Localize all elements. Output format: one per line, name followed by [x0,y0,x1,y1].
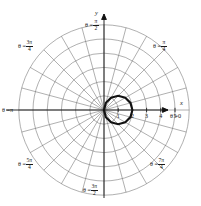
angle-label-theta-3pi-2: θ =3π2 [83,184,98,197]
x-tick-label-5: 5 [171,113,179,119]
grid-spoke-45deg [104,50,164,110]
angle-label-prefix: θ = [85,21,93,28]
angle-label-prefix: θ = [18,42,26,49]
polar-plot-canvas [0,0,201,206]
fraction: 3π4 [26,40,33,53]
angle-label-theta-pi-4: θ =π4 [153,40,167,53]
fraction-numerator: 7π [158,158,165,164]
angle-label-prefix: θ = [83,186,91,193]
grid-spoke-120deg [61,36,104,110]
x-axis-label: x [180,99,183,106]
angle-label-theta-pi: θ =π [2,107,13,113]
x-tick-label-2: 2 [128,113,136,119]
angle-label-theta-pi-2: θ =π2 [85,19,99,32]
fraction-denominator: 4 [162,47,166,53]
fraction-numerator: π [162,40,166,46]
x-tick-label-1: 1 [114,113,122,119]
grid-spoke-240deg [61,110,104,184]
angle-label-prefix: θ = [2,106,10,113]
fraction-denominator: 4 [159,165,163,171]
fraction: π2 [93,19,99,32]
x-tick-label-4: 4 [157,113,165,119]
angle-label-value: π [10,106,13,113]
fraction-numerator: 3π [26,40,33,46]
polar-plot-figure: θ =0 θ =π4 θ =π2 θ =3π4 θ =π θ =5π4 θ =3… [0,0,201,206]
fraction-numerator: 3π [91,184,98,190]
fraction-numerator: π [94,19,98,25]
x-tick-label-3: 3 [143,113,151,119]
angle-label-theta-7pi-4: θ =7π4 [150,158,165,171]
grid-spoke-210deg [30,110,104,153]
fraction-denominator: 4 [27,47,31,53]
grid-spoke-30deg [104,67,178,110]
y-axis-arrowhead [102,14,107,20]
fraction-denominator: 4 [27,165,31,171]
fraction: 5π4 [26,158,33,171]
angle-label-theta-5pi-4: θ =5π4 [18,158,33,171]
fraction: π4 [161,40,167,53]
grid-spoke-225deg [44,110,104,170]
fraction-denominator: 2 [92,191,96,197]
angle-label-prefix: θ = [18,160,26,167]
fraction-denominator: 2 [94,26,98,32]
angle-label-theta-3pi-4: θ =3π4 [18,40,33,53]
fraction: 7π4 [158,158,165,171]
fraction: 3π2 [91,184,98,197]
grid-spoke-135deg [44,50,104,110]
fraction-numerator: 5π [26,158,33,164]
angle-label-prefix: θ = [150,160,158,167]
angle-label-prefix: θ = [153,42,161,49]
grid-spoke-150deg [30,67,104,110]
y-axis-label: y [95,9,98,16]
